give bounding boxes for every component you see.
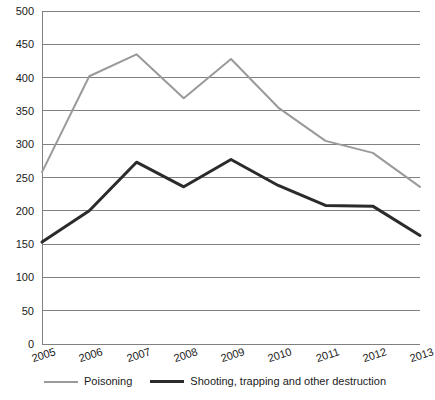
x-tick-label: 2011 xyxy=(314,346,340,364)
series-line xyxy=(42,160,420,243)
y-tick-label: 500 xyxy=(16,6,34,17)
x-tick-label: 2008 xyxy=(172,346,199,364)
x-tick-label: 2009 xyxy=(219,346,246,364)
legend-entry: Poisoning xyxy=(44,376,132,387)
legend-label: Poisoning xyxy=(84,376,132,387)
chart-legend: PoisoningShooting, trapping and other de… xyxy=(0,376,430,387)
y-tick-label: 100 xyxy=(16,272,34,283)
y-tick-label: 50 xyxy=(22,305,34,316)
x-tick-label: 2012 xyxy=(361,346,388,364)
plot-area xyxy=(42,11,420,344)
y-tick-label: 250 xyxy=(16,172,34,183)
y-axis: 050100150200250300350400450500 xyxy=(0,0,38,355)
legend-swatch-icon xyxy=(44,381,78,383)
x-tick-label: 2006 xyxy=(78,346,105,364)
legend-swatch-icon xyxy=(150,380,184,383)
y-tick-label: 450 xyxy=(16,39,34,50)
legend-label: Shooting, trapping and other destruction xyxy=(190,376,386,387)
y-tick-label: 300 xyxy=(16,139,34,150)
y-tick-label: 0 xyxy=(28,339,34,350)
x-tick-label: 2010 xyxy=(267,346,294,364)
y-tick-label: 200 xyxy=(16,205,34,216)
x-axis: 200520062007200820092010201120122013 xyxy=(42,344,420,372)
series-line xyxy=(42,54,420,187)
legend-entry: Shooting, trapping and other destruction xyxy=(150,376,386,387)
y-tick-label: 350 xyxy=(16,105,34,116)
x-tick-label: 2007 xyxy=(125,346,152,364)
y-tick-label: 400 xyxy=(16,72,34,83)
x-tick-label: 2013 xyxy=(408,346,435,364)
series-lines xyxy=(42,11,420,344)
y-tick-label: 150 xyxy=(16,239,34,250)
